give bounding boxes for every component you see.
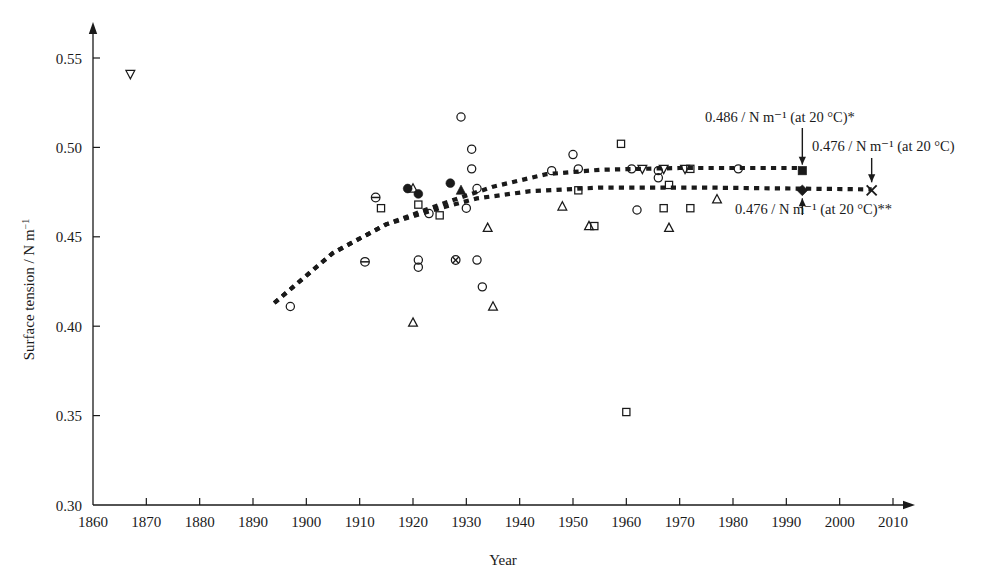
- data-point-open-circle: [468, 145, 476, 153]
- data-point-circle-bar: [371, 193, 380, 202]
- data-point-open-up-triangle: [558, 202, 567, 210]
- data-point-filled-up-triangle: [456, 185, 466, 194]
- x-axis-tick-label: 1990: [771, 514, 801, 530]
- x-axis-tick-label: 1880: [185, 514, 215, 530]
- data-point-open-square: [617, 140, 624, 147]
- data-point-filled-square: [798, 166, 806, 174]
- data-point-open-circle: [633, 206, 641, 214]
- x-axis-tick-label: 2000: [825, 514, 855, 530]
- x-axis-tick-label: 1980: [718, 514, 748, 530]
- data-point-open-up-triangle: [489, 302, 498, 310]
- data-point-cross: [867, 185, 877, 195]
- x-axis-arrowhead: [903, 501, 915, 509]
- y-axis-tick-label: 0.30: [56, 498, 82, 514]
- data-point-open-up-triangle: [713, 195, 722, 203]
- x-axis-tick-label: 1890: [238, 514, 268, 530]
- y-axis-tick-label: 0.40: [56, 319, 82, 335]
- x-axis-tick-label: 1870: [131, 514, 161, 530]
- svg-text:Surface tension / N m−1: Surface tension / N m−1: [20, 219, 37, 360]
- x-axis-tick-label: 1940: [505, 514, 535, 530]
- x-axis-title: Year: [489, 552, 517, 568]
- annotation-upper-trend-text: 0.486 / N m⁻¹ (at 20 °C)*: [705, 109, 855, 125]
- annotation-upper-trend-value: 0.486 / N m⁻¹ (at 20 °C)*: [705, 108, 855, 126]
- data-point-open-circle: [473, 256, 481, 264]
- annotation-lower-trend-text: 0.476 / N m⁻¹ (at 20 °C)**: [735, 201, 892, 217]
- data-point-filled-circle: [446, 179, 455, 188]
- annotation-cross-endpoint-value: 0.476 / N m⁻¹ (at 20 °C): [812, 137, 955, 155]
- data-point-open-square: [436, 212, 443, 219]
- data-point-open-square: [415, 201, 422, 208]
- annotation-cross-endpoint-text: 0.476 / N m⁻¹ (at 20 °C): [812, 138, 955, 154]
- data-point-open-circle: [286, 302, 294, 310]
- x-axis-tick-label: 1930: [451, 514, 481, 530]
- annotation-lower-trend-value: 0.476 / N m⁻¹ (at 20 °C)**: [735, 200, 892, 218]
- data-point-open-down-triangle: [126, 70, 135, 78]
- data-point-open-circle: [468, 165, 476, 173]
- data-point-open-square: [660, 205, 667, 212]
- arrow-cross-endpoint-head: [868, 174, 875, 182]
- data-point-open-square: [687, 205, 694, 212]
- x-axis-tick-label: 1960: [611, 514, 641, 530]
- x-axis-tick-label: 1950: [558, 514, 588, 530]
- arrow-upper-trend-head: [799, 157, 806, 165]
- data-point-filled-circle: [414, 189, 423, 198]
- y-axis-arrowhead: [89, 22, 97, 34]
- data-point-circle-bar: [361, 258, 370, 267]
- data-point-open-circle: [457, 113, 465, 121]
- x-axis-tick-label: 2010: [878, 514, 908, 530]
- data-point-open-square: [377, 205, 384, 212]
- data-point-open-circle: [473, 184, 481, 192]
- data-point-open-circle: [478, 283, 486, 291]
- data-point-open-circle: [569, 150, 577, 158]
- data-point-open-square: [623, 408, 630, 415]
- data-point-open-circle: [462, 204, 470, 212]
- y-axis-tick-label: 0.50: [56, 140, 82, 156]
- y-axis-tick-label: 0.35: [56, 408, 82, 424]
- figure-root: 0.550.500.450.400.350.301860187018801890…: [0, 0, 998, 579]
- data-point-open-up-triangle: [483, 223, 492, 231]
- x-axis-tick-label: 1900: [291, 514, 321, 530]
- y-axis-title: Surface tension / N m−1: [20, 219, 37, 360]
- data-point-open-circle: [548, 167, 556, 175]
- data-point-circle-cross: [451, 256, 460, 265]
- data-point-open-up-triangle: [665, 223, 674, 231]
- x-axis-tick-label: 1860: [78, 514, 108, 530]
- y-axis-tick-label: 0.45: [56, 229, 82, 245]
- data-point-open-up-triangle: [409, 318, 418, 326]
- x-axis-tick-label: 1970: [665, 514, 695, 530]
- x-axis-tick-label: 1910: [345, 514, 375, 530]
- scatter-plot-canvas: 0.550.500.450.400.350.301860187018801890…: [0, 0, 998, 579]
- x-axis-tick-label: 1920: [398, 514, 428, 530]
- y-axis-tick-label: 0.55: [56, 51, 82, 67]
